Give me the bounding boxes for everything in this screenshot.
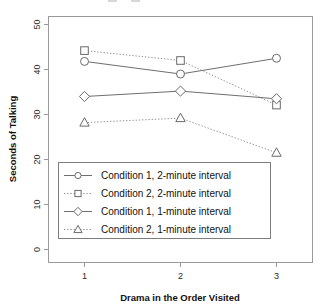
- circle-marker-icon: [81, 57, 89, 65]
- circle-marker-icon: [177, 70, 185, 78]
- diamond-marker-icon: [175, 86, 185, 96]
- chart-canvas: 50 40 30 20 10 0 Seconds of Talking 1 2 …: [0, 0, 321, 308]
- series-2: [79, 86, 281, 104]
- x-axis-title: Drama in the Order Visited: [120, 292, 240, 303]
- legend-label-0: Condition 1, 2-minute interval: [101, 170, 231, 181]
- y-tick-label-10: 10: [32, 199, 42, 209]
- x-tick-label-3: 3: [274, 271, 279, 281]
- diamond-marker-icon: [79, 91, 89, 101]
- line-chart-figure: 50 40 30 20 10 0 Seconds of Talking 1 2 …: [0, 0, 321, 308]
- x-tick-label-1: 1: [82, 271, 87, 281]
- circle-marker-icon: [75, 172, 81, 178]
- triangle-marker-icon: [176, 113, 185, 121]
- y-tick-label-20: 20: [32, 154, 42, 164]
- square-marker-icon: [177, 57, 185, 65]
- y-axis-tick-labels: 50 40 30 20 10 0: [32, 19, 42, 252]
- x-tick-label-2: 2: [178, 271, 183, 281]
- y-axis-ticks: [44, 25, 49, 250]
- circle-marker-icon: [273, 54, 281, 62]
- square-marker-icon: [75, 190, 81, 196]
- series-3: [80, 113, 281, 156]
- legend-label-2: Condition 1, 1-minute interval: [101, 206, 231, 217]
- x-axis-tick-labels: 1 2 3: [82, 271, 279, 281]
- top-crop-artifact: [108, 0, 140, 2]
- legend-label-1: Condition 2, 2-minute interval: [101, 188, 231, 199]
- triangle-marker-icon: [272, 148, 281, 156]
- series-line: [85, 118, 277, 153]
- triangle-marker-icon: [80, 118, 89, 126]
- series-layer: [79, 47, 281, 156]
- y-axis-title: Seconds of Talking: [7, 96, 18, 183]
- y-tick-label-30: 30: [32, 109, 42, 119]
- x-axis-ticks: [85, 263, 277, 268]
- legend: Condition 1, 2-minute interval Condition…: [59, 163, 271, 239]
- y-tick-label-50: 50: [32, 19, 42, 29]
- y-tick-label-0: 0: [32, 247, 42, 252]
- square-marker-icon: [81, 47, 89, 55]
- legend-label-3: Condition 2, 1-minute interval: [101, 224, 231, 235]
- y-tick-label-40: 40: [32, 64, 42, 74]
